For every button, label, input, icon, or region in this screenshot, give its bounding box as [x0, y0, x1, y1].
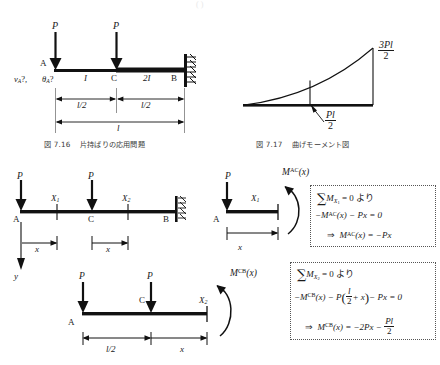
implies-icon-2: ⇒	[305, 322, 313, 332]
fbdac-moment-arg: (x)	[299, 167, 310, 177]
fbdac-load-label: P	[225, 172, 231, 182]
fullbeam-load-left-label: P	[17, 172, 23, 182]
fig716-load-mid-label: P	[113, 21, 119, 31]
mid-numerator: Pl	[325, 110, 336, 120]
eq-ac-line3-rest: (x) = −Px	[355, 230, 391, 240]
fbdac-cut-label: X1	[251, 194, 259, 204]
fig716-load-left-label: P	[52, 21, 58, 31]
fig717-mid-value: Pl 2	[325, 110, 336, 131]
fig716-caption-text: 片持ばりの応用問題	[80, 141, 145, 148]
mid-denominator: 2	[325, 120, 336, 131]
fig717-peak-value: 3Pl 2	[378, 40, 394, 61]
eq-ac-line1-rest: = 0 より	[342, 193, 374, 203]
eq-cb-line-2: −MCB(x) − P( l 2 + x)− Px = 0	[294, 287, 402, 306]
fig716-node-a-label: A	[40, 59, 47, 68]
fig716-caption-number: 図 7.16	[44, 141, 71, 148]
fullbeam-x-right-label: x	[106, 245, 110, 254]
fig716-node-b-label: B	[171, 74, 177, 83]
figure-sheet: ( )	[0, 0, 440, 365]
eq-cb-m: M	[306, 269, 314, 279]
fig716-node-c-label: C	[111, 74, 117, 83]
eq-ac-line-1: ∑MX1 = 0 より	[317, 191, 374, 206]
fullbeam-node-a-label: A	[13, 215, 20, 224]
eq-cb-line-1: ∑MX2 = 0 より	[297, 267, 354, 282]
fbdcb-load-mid-label: P	[147, 272, 153, 282]
eq-cb-line2-c: − Px = 0	[369, 292, 402, 302]
eq-ac-m: M	[326, 193, 334, 203]
fullbeam-x-left-label: x	[35, 245, 39, 254]
eq-ac-line-3: ⇒ MAC(x) = −Px	[327, 230, 391, 240]
fig716-dim-right: l/2	[141, 101, 151, 110]
eq-cb-subsub: 2	[317, 276, 319, 281]
v-question: ?,	[21, 74, 27, 84]
fbdcb-cut-subscript: 2	[205, 299, 208, 305]
fullbeam-node-b-label: B	[163, 215, 169, 224]
eq-ac-subsub: 1	[337, 200, 339, 205]
fbdcb-moment-label: MCB(x)	[230, 268, 257, 278]
eq-cb-line2-m: −M	[294, 292, 308, 302]
fbdac-moment-superscript: AC	[290, 166, 299, 173]
theta-question: ?	[50, 74, 54, 84]
eq-cb-line3-sup: CB	[325, 322, 333, 328]
eq-ac-line3-m: M	[340, 230, 348, 240]
fig716-stiffness-right: 2I	[143, 74, 151, 83]
fullbeam-load-mid-label: P	[88, 172, 94, 182]
fbdcb-moment-symbol: M	[230, 268, 238, 278]
eq-cb-line2-b: (x) − P	[316, 292, 342, 302]
eq-cb-line3-frac-den: 2	[384, 326, 394, 336]
fig717-caption-text: 曲げモーメント図	[292, 141, 350, 148]
fig716-unknown-slope: θA?	[42, 75, 53, 85]
fbdac-moment-symbol: M	[282, 167, 290, 177]
cut1-subscript: 1	[57, 197, 60, 203]
fig-7-16-graphics	[0, 0, 220, 140]
eq-ac-line3-sup: AC	[347, 231, 355, 237]
equation-box-ac: ∑MX1 = 0 より −MAC(x) − Px = 0 ⇒ MAC(x) = …	[310, 185, 436, 247]
fullbeam-node-c-label: C	[88, 215, 94, 224]
eq-cb-line1-rest: = 0 より	[322, 269, 354, 279]
fbdcb-dim-x-label: x	[180, 345, 184, 354]
fbdcb-moment-arg: (x)	[246, 268, 257, 278]
peak-numerator: 3Pl	[378, 40, 394, 50]
implies-icon: ⇒	[327, 230, 335, 240]
fig716-dim-total: l	[117, 124, 120, 133]
eq-cb-line3-frac-num: Pl	[384, 317, 394, 326]
eq-ac-line-2: −MAC(x) − Px = 0	[315, 210, 382, 220]
fbdcb-dim-half-label: l/2	[106, 345, 116, 354]
fbdcb-load-left-label: P	[79, 272, 85, 282]
eq-ac-line2-m: −M	[315, 210, 329, 220]
eq-cb-line-3: ⇒ MCB(x) = −2Px − Pl 2	[305, 317, 394, 336]
fbdac-dim-x-label: x	[238, 243, 242, 252]
peak-denominator: 2	[378, 50, 394, 61]
fig717-caption-number: 図 7.17	[256, 141, 283, 148]
sigma-icon: ∑	[317, 191, 326, 206]
fbdac-node-a-label: A	[213, 215, 220, 224]
fig-7-17-graphics	[240, 30, 440, 170]
fullbeam-axis-y-label: y	[14, 272, 18, 281]
eq-cb-line2-sup: CB	[308, 292, 316, 298]
cut2-subscript: 2	[128, 197, 131, 203]
fig716-dim-left: l/2	[77, 101, 87, 110]
fig716-stiffness-left: I	[84, 74, 87, 83]
fbdcb-cut-label: X2	[199, 296, 207, 306]
fbdcb-node-c-label: C	[139, 296, 145, 305]
fbdac-cut-subscript: 1	[257, 197, 260, 203]
eq-ac-line2-sup: AC	[329, 211, 337, 217]
fbdcb-node-a-label: A	[68, 318, 75, 327]
fullbeam-cut-2-label: X2	[122, 194, 130, 204]
eq-cb-line2-plus: + x	[352, 292, 364, 302]
eq-cb-line3-m: M	[318, 322, 326, 332]
eq-ac-line2-rest: (x) − Px = 0	[337, 210, 382, 220]
eq-cb-line3-a: (x) = −2Px −	[333, 322, 382, 332]
fig716-unknown-deflection: vA?,	[14, 75, 27, 85]
fullbeam-cut-1-label: X1	[51, 194, 59, 204]
equation-box-cb: ∑MX2 = 0 より −MCB(x) − P( l 2 + x)− Px = …	[290, 262, 436, 340]
fbdac-moment-label: MAC(x)	[282, 167, 309, 177]
sigma-icon-2: ∑	[297, 267, 306, 282]
